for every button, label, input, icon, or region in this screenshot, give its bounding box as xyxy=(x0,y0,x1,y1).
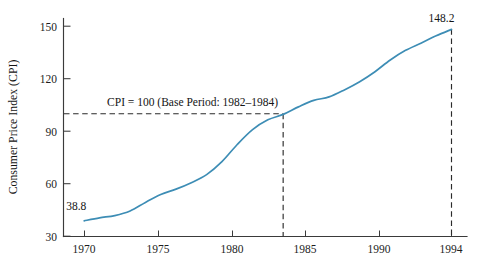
x-tick-label-1985: 1985 xyxy=(294,243,317,255)
y-tick-label-30: 30 xyxy=(46,231,58,243)
annotation-end-value: 148.2 xyxy=(429,12,455,24)
y-tick-label-90: 90 xyxy=(46,126,58,138)
y-tick-label-120: 120 xyxy=(40,73,58,85)
annotation-start-value: 38.8 xyxy=(66,200,86,212)
x-tick-label-1970: 1970 xyxy=(73,243,96,255)
chart-canvas: 150 120 90 60 30 1970 1975 1980 1985 199… xyxy=(0,0,478,264)
annotation-base-period: CPI = 100 (Base Period: 1982–1984) xyxy=(107,96,278,109)
y-tick-label-60: 60 xyxy=(46,178,58,190)
x-tick-label-1994: 1994 xyxy=(440,243,463,255)
x-tick-label-1990: 1990 xyxy=(368,243,391,255)
y-axis-title: Consumer Price Index (CPI) xyxy=(6,60,20,195)
x-tick-label-1980: 1980 xyxy=(221,243,244,255)
y-tick-label-150: 150 xyxy=(40,21,58,33)
cpi-line-chart: 150 120 90 60 30 1970 1975 1980 1985 199… xyxy=(0,0,478,264)
x-tick-label-1975: 1975 xyxy=(147,243,170,255)
